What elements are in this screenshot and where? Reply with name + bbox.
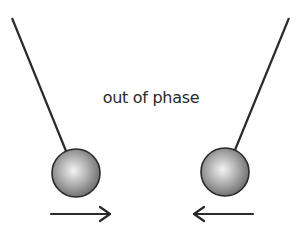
right-string [235,18,289,150]
left-bob [52,149,100,197]
right-bob [201,148,249,196]
left-arrow-icon [194,207,253,221]
right-pendulum [194,18,289,221]
left-string [12,18,66,151]
caption: out of phase [0,88,302,107]
left-pendulum [12,18,110,221]
right-arrow-icon [51,207,110,221]
pendulum-diagram [0,0,302,226]
